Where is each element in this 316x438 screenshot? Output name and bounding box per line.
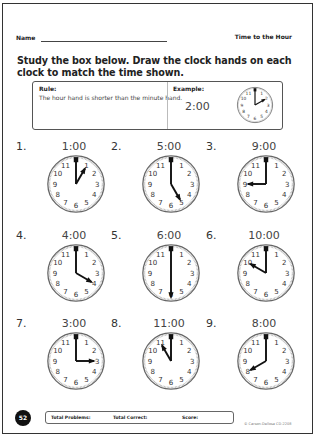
svg-text:7: 7 xyxy=(158,287,162,296)
problem-9: 9. 8:00 1234567891011 xyxy=(206,317,306,407)
svg-text:11: 11 xyxy=(246,91,252,96)
svg-text:4: 4 xyxy=(282,190,287,199)
svg-text:11: 11 xyxy=(156,338,165,347)
problem-7: 7. 3:00 1234567891011 xyxy=(16,317,116,407)
svg-text:2: 2 xyxy=(187,169,191,178)
clock-icon[interactable]: 1234567891011 xyxy=(139,329,203,393)
svg-text:9: 9 xyxy=(53,180,57,189)
svg-text:10: 10 xyxy=(53,258,62,267)
svg-text:6: 6 xyxy=(74,378,79,387)
svg-text:10: 10 xyxy=(243,258,252,267)
svg-text:5: 5 xyxy=(274,198,278,207)
svg-text:7: 7 xyxy=(63,375,67,384)
svg-text:3: 3 xyxy=(190,180,194,189)
svg-text:9: 9 xyxy=(148,180,152,189)
svg-text:6: 6 xyxy=(169,201,174,210)
svg-text:8: 8 xyxy=(150,367,154,376)
svg-text:9: 9 xyxy=(243,269,247,278)
clock-icon[interactable]: 1234567891011 xyxy=(44,329,108,393)
total-correct-label: Total Correct: xyxy=(113,415,147,420)
svg-text:1: 1 xyxy=(84,250,88,259)
svg-text:7: 7 xyxy=(63,287,67,296)
svg-text:8: 8 xyxy=(245,190,249,199)
svg-text:10: 10 xyxy=(148,258,157,267)
problem-3: 3. 9:00 1234567891011 xyxy=(206,140,306,230)
svg-text:8: 8 xyxy=(55,190,59,199)
svg-text:5: 5 xyxy=(179,287,183,296)
svg-text:1: 1 xyxy=(179,161,183,170)
clock-icon[interactable]: 1234567891011 xyxy=(44,152,108,216)
svg-text:7: 7 xyxy=(253,198,257,207)
clock-icon[interactable]: 1234567891011 xyxy=(44,241,108,305)
svg-text:3: 3 xyxy=(190,357,194,366)
problem-number: 3. xyxy=(206,140,217,153)
svg-text:1: 1 xyxy=(274,338,278,347)
svg-text:3: 3 xyxy=(267,103,270,108)
svg-text:10: 10 xyxy=(53,346,62,355)
svg-text:5: 5 xyxy=(84,198,88,207)
svg-text:8: 8 xyxy=(150,190,154,199)
svg-text:6: 6 xyxy=(254,116,257,121)
svg-text:7: 7 xyxy=(253,375,257,384)
svg-text:1: 1 xyxy=(179,250,183,259)
example-clock-icon: 1234567891011 xyxy=(235,85,275,125)
svg-text:6: 6 xyxy=(74,290,79,299)
instructions: Study the box below. Draw the clock hand… xyxy=(17,55,312,79)
svg-text:2: 2 xyxy=(92,169,96,178)
svg-text:3: 3 xyxy=(190,269,194,278)
svg-text:7: 7 xyxy=(158,198,162,207)
name-field[interactable] xyxy=(41,41,167,42)
clock-icon[interactable]: 1234567891011 xyxy=(139,152,203,216)
svg-text:11: 11 xyxy=(251,250,260,259)
svg-text:8: 8 xyxy=(150,279,154,288)
svg-text:8: 8 xyxy=(55,279,59,288)
svg-text:1: 1 xyxy=(274,161,278,170)
svg-text:6: 6 xyxy=(74,201,79,210)
svg-text:1: 1 xyxy=(260,91,263,96)
problem-number: 7. xyxy=(16,317,27,330)
svg-text:2: 2 xyxy=(92,346,96,355)
problem-number: 2. xyxy=(111,140,122,153)
svg-text:1: 1 xyxy=(179,338,183,347)
svg-text:6: 6 xyxy=(264,201,269,210)
problem-8: 8. 11:00 1234567891011 xyxy=(111,317,211,407)
svg-text:7: 7 xyxy=(158,375,162,384)
problem-number: 9. xyxy=(206,317,217,330)
svg-text:7: 7 xyxy=(253,287,257,296)
score-box: Total Problems: Total Correct: Score: xyxy=(45,411,234,424)
page-number-badge: 52 xyxy=(15,410,31,426)
svg-text:3: 3 xyxy=(285,269,289,278)
svg-text:3: 3 xyxy=(285,180,289,189)
svg-text:11: 11 xyxy=(61,250,70,259)
svg-text:4: 4 xyxy=(92,367,97,376)
rule-box: Rule: The hour hand is shorter than the … xyxy=(32,81,283,130)
problem-6: 6. 10:00 1234567891011 xyxy=(206,229,306,319)
svg-text:2: 2 xyxy=(187,346,191,355)
problem-number: 8. xyxy=(111,317,122,330)
problem-2: 2. 5:00 1234567891011 xyxy=(111,140,211,230)
svg-text:4: 4 xyxy=(92,190,97,199)
svg-text:8: 8 xyxy=(245,367,249,376)
score-label: Score: xyxy=(182,415,198,420)
clock-icon[interactable]: 1234567891011 xyxy=(234,152,298,216)
problem-number: 6. xyxy=(206,229,217,242)
svg-text:2: 2 xyxy=(265,96,268,101)
problem-number: 5. xyxy=(111,229,122,242)
svg-text:10: 10 xyxy=(148,346,157,355)
clock-icon[interactable]: 1234567891011 xyxy=(139,241,203,305)
clock-icon[interactable]: 1234567891011 xyxy=(234,241,298,305)
svg-text:11: 11 xyxy=(61,161,70,170)
name-label: Name xyxy=(16,34,35,41)
svg-text:1: 1 xyxy=(84,338,88,347)
svg-text:9: 9 xyxy=(243,357,247,366)
svg-text:4: 4 xyxy=(187,190,192,199)
svg-text:8: 8 xyxy=(55,367,59,376)
svg-text:7: 7 xyxy=(247,114,250,119)
svg-text:10: 10 xyxy=(53,169,62,178)
svg-text:11: 11 xyxy=(251,161,260,170)
clock-icon[interactable]: 1234567891011 xyxy=(234,329,298,393)
problem-number: 4. xyxy=(16,229,27,242)
svg-text:4: 4 xyxy=(187,367,192,376)
svg-text:2: 2 xyxy=(187,258,191,267)
svg-text:11: 11 xyxy=(156,161,165,170)
